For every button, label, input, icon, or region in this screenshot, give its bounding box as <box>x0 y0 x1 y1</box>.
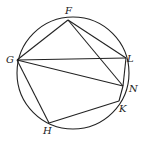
segments <box>17 20 126 123</box>
segment-GH <box>17 60 49 123</box>
vertex-label-H: H <box>42 125 52 136</box>
segment-HK <box>49 101 119 123</box>
segment-GN <box>17 60 123 86</box>
circle-diagram: FGLNKH <box>0 0 144 154</box>
vertex-label-G: G <box>6 54 14 65</box>
segment-GL <box>17 58 126 60</box>
vertex-label-K: K <box>118 103 127 114</box>
vertex-label-L: L <box>126 53 134 64</box>
vertex-label-F: F <box>64 5 73 16</box>
segment-NL <box>123 58 126 86</box>
vertex-label-N: N <box>128 83 139 94</box>
segment-FN <box>68 20 123 86</box>
